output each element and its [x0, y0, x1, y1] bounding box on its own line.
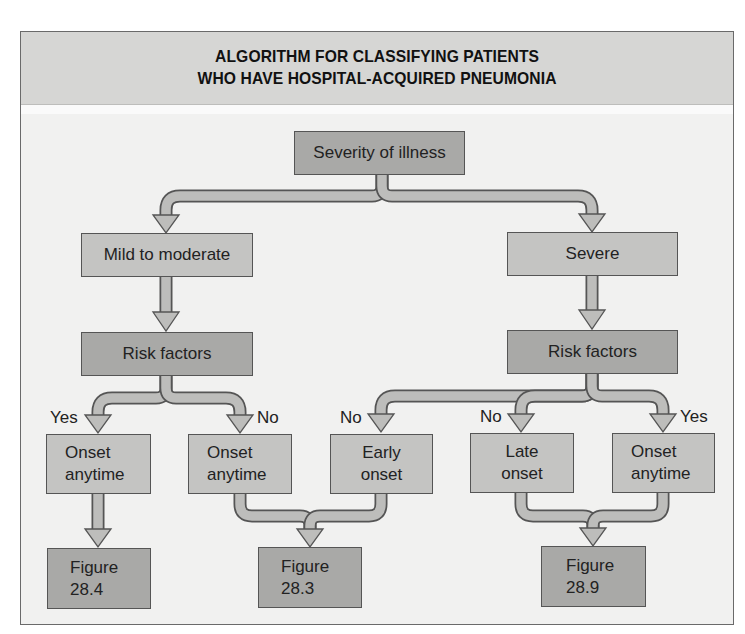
node-label-line2: 28.9 — [566, 577, 599, 599]
node-label: Severe — [566, 243, 620, 265]
arrow-root-to-severe — [382, 174, 605, 232]
connector-layer: .pipe { fill: none; stroke: #555555; str… — [0, 0, 745, 634]
node-risk-factors-left: Risk factors — [81, 332, 253, 376]
node-label-line1: Early — [362, 442, 401, 464]
arrow-leaf4-to-fig3 — [521, 492, 593, 530]
node-label-line2: 28.4 — [70, 579, 103, 601]
node-label-line2: onset — [361, 464, 403, 486]
node-label-line1: Figure — [566, 555, 614, 577]
edge-label-right-no-early: No — [340, 408, 362, 428]
node-label: Mild to moderate — [104, 244, 231, 266]
node-early-onset: Early onset — [330, 434, 433, 494]
node-label-line1: Figure — [70, 557, 118, 579]
node-risk-factors-right: Risk factors — [507, 330, 678, 374]
edge-label-right-yes: Yes — [680, 407, 708, 427]
node-label-line1: Late — [505, 441, 538, 463]
arrow-leaf3-to-fig2 — [297, 492, 381, 547]
node-label-line1: Figure — [281, 556, 329, 578]
node-label-line1: Onset — [631, 441, 676, 463]
node-onset-anytime-1: Onset anytime — [46, 434, 151, 494]
arrow-risk-left-to-leaf2 — [166, 375, 253, 433]
arrow-risk-right-to-leaf4 — [508, 373, 592, 432]
node-onset-anytime-3: Onset anytime — [612, 433, 715, 493]
node-severe: Severe — [507, 232, 678, 276]
arrow-leaf1-to-fig1 — [85, 492, 111, 547]
node-figure-28-3: Figure 28.3 — [258, 547, 362, 608]
edge-label-left-yes: Yes — [50, 408, 78, 428]
arrow-risk-left-to-leaf1 — [85, 375, 166, 433]
node-label-line1: Onset — [65, 442, 110, 464]
node-figure-28-9: Figure 28.9 — [541, 546, 646, 607]
node-late-onset: Late onset — [470, 433, 574, 493]
node-label: Risk factors — [123, 343, 212, 365]
node-label-line2: 28.3 — [281, 578, 314, 600]
node-label: Severity of illness — [313, 142, 445, 164]
node-label-line2: anytime — [631, 463, 691, 485]
node-severity-of-illness: Severity of illness — [294, 131, 465, 175]
node-onset-anytime-2: Onset anytime — [188, 434, 292, 494]
node-figure-28-4: Figure 28.4 — [47, 548, 151, 609]
node-mild-to-moderate: Mild to moderate — [81, 233, 253, 277]
node-label-line1: Onset — [207, 442, 252, 464]
arrow-leaf5-to-fig3 — [580, 492, 663, 546]
arrow-leaf2-to-fig2 — [240, 492, 310, 531]
arrow-mild-to-risk — [153, 276, 179, 331]
arrow-root-to-mild — [153, 174, 382, 233]
arrow-severe-to-risk — [579, 274, 605, 329]
node-label-line2: onset — [501, 463, 543, 485]
node-label-line2: anytime — [65, 464, 125, 486]
edge-label-left-no: No — [257, 408, 279, 428]
node-label-line2: anytime — [207, 464, 267, 486]
edge-label-right-no-late: No — [480, 407, 502, 427]
arrow-risk-right-to-leaf5 — [592, 373, 676, 432]
node-label: Risk factors — [548, 341, 637, 363]
